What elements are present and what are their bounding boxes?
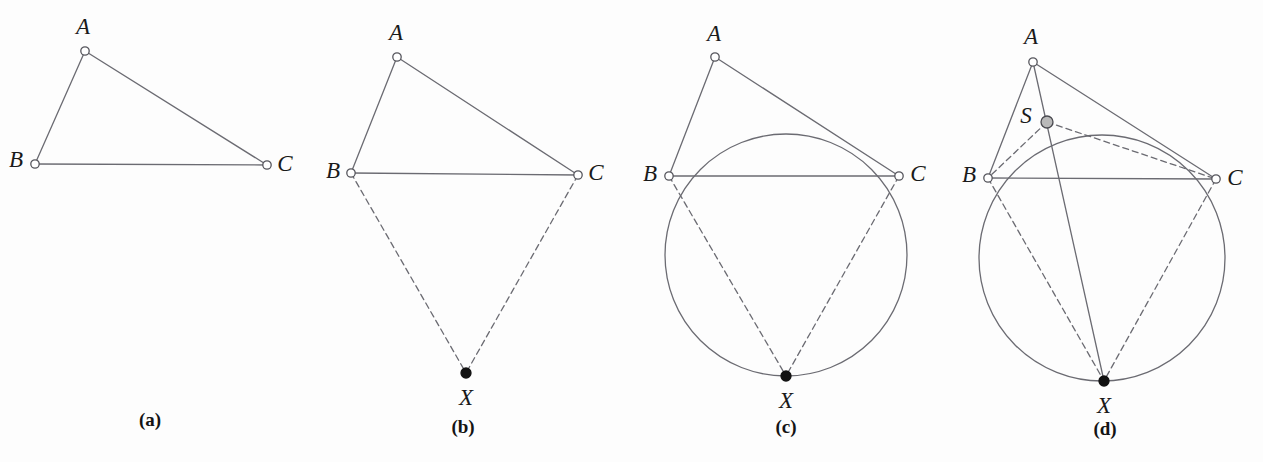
vertex-label-b-panel-d: B xyxy=(962,163,976,186)
panel-caption-d: (d) xyxy=(1093,419,1116,438)
vertex-label-a-panel-c: A xyxy=(707,22,721,45)
vertex-label-a-panel-a: A xyxy=(76,15,90,38)
geometry-canvas xyxy=(0,0,1263,462)
vertex-b-point xyxy=(347,169,355,177)
geometry-figure: ABC(a)ABCX(b)ABCX(c)ASBCX(d) xyxy=(0,0,1263,462)
segment-cx xyxy=(786,176,899,376)
segment-ab xyxy=(35,51,85,164)
segment-sb xyxy=(988,122,1047,178)
vertex-label-a-panel-b: A xyxy=(389,21,403,44)
segment-bx xyxy=(351,173,466,373)
panel-c xyxy=(665,53,907,381)
segment-ab xyxy=(669,57,715,176)
vertex-label-x-panel-c: X xyxy=(779,389,793,412)
panel-caption-c: (c) xyxy=(775,417,796,436)
vertex-label-b-panel-a: B xyxy=(9,148,23,171)
segment-bx xyxy=(669,176,786,376)
vertex-label-a-panel-d: A xyxy=(1024,25,1038,48)
segment-ab xyxy=(351,57,397,173)
segment-ac xyxy=(397,57,578,175)
vertex-c-point xyxy=(1212,175,1220,183)
vertex-a-point xyxy=(1029,58,1037,66)
segment-ax xyxy=(1033,62,1104,381)
vertex-label-x-panel-d: X xyxy=(1097,394,1111,417)
vertex-x-point xyxy=(461,368,471,378)
panel-d xyxy=(979,58,1225,386)
vertex-c-point xyxy=(895,172,903,180)
circumcircle-BCX xyxy=(665,134,907,376)
segment-cx xyxy=(1104,179,1216,381)
vertex-label-c-panel-b: C xyxy=(588,161,603,184)
vertex-x-point xyxy=(781,371,791,381)
segment-bc xyxy=(351,173,578,175)
vertex-label-c-panel-a: C xyxy=(277,152,292,175)
panel-a xyxy=(31,47,271,169)
segment-bc xyxy=(988,178,1216,179)
segment-ac xyxy=(715,57,899,176)
panel-b xyxy=(347,53,582,378)
vertex-label-c-panel-c: C xyxy=(910,162,925,185)
vertex-c-point xyxy=(574,171,582,179)
vertex-x-point xyxy=(1099,376,1109,386)
panel-caption-a: (a) xyxy=(139,410,161,429)
vertex-label-x-panel-b: X xyxy=(459,386,473,409)
vertex-b-point xyxy=(665,172,673,180)
vertex-s-point xyxy=(1041,116,1053,128)
vertex-label-b-panel-c: B xyxy=(643,162,657,185)
segment-bx xyxy=(988,178,1104,381)
vertex-label-c-panel-d: C xyxy=(1227,166,1242,189)
circumcircle-BCX xyxy=(979,135,1225,381)
vertex-a-point xyxy=(81,47,89,55)
segment-bc xyxy=(35,164,267,165)
vertex-c-point xyxy=(263,161,271,169)
vertex-b-point xyxy=(984,174,992,182)
vertex-label-b-panel-b: B xyxy=(326,159,340,182)
vertex-label-s-panel-d: S xyxy=(1020,104,1032,127)
vertex-a-point xyxy=(393,53,401,61)
panel-caption-b: (b) xyxy=(451,417,474,436)
segment-ac xyxy=(85,51,267,165)
vertex-b-point xyxy=(31,160,39,168)
vertex-a-point xyxy=(711,53,719,61)
segment-cx xyxy=(466,175,578,373)
segment-ac xyxy=(1033,62,1216,179)
segment-sc xyxy=(1047,122,1216,179)
